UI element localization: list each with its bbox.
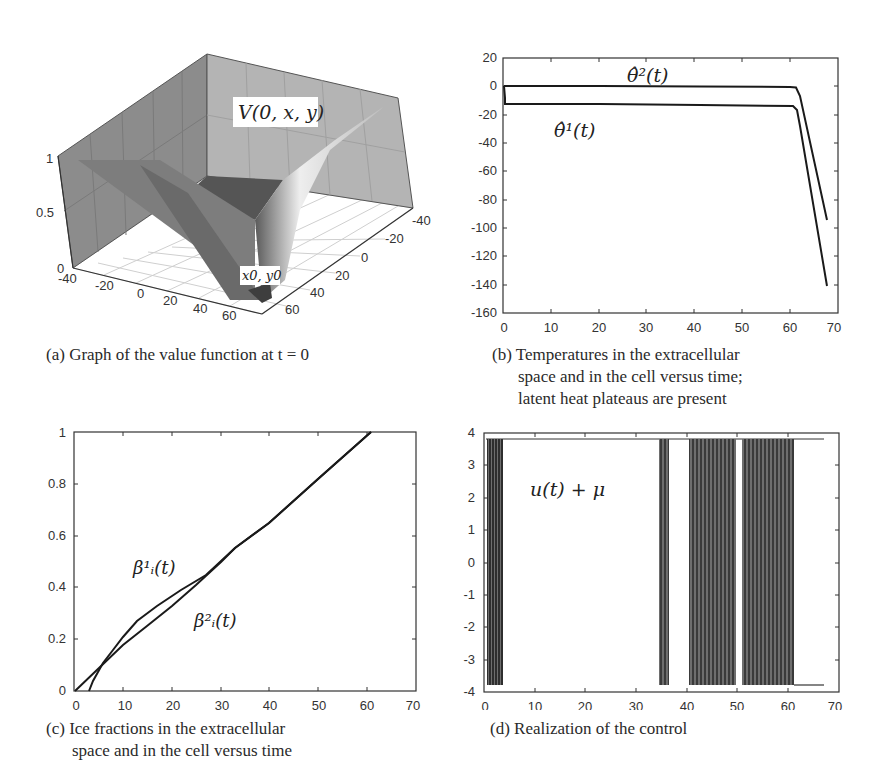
panel-c-ice-fraction-plot: 10.80.60.40.20 010203040506070 β¹ᵢ(t) β²… (0, 420, 440, 710)
svg-text:-40: -40 (412, 213, 431, 228)
label-theta2: θ̂²(t) (627, 64, 669, 86)
svg-text:-120: -120 (471, 248, 497, 263)
svg-text:30: 30 (215, 698, 229, 710)
caption-a-label: (a) (46, 345, 65, 364)
svg-text:40: 40 (263, 698, 277, 710)
svg-text:40: 40 (193, 301, 207, 316)
caption-b: (b) Temperatures in the extracellular sp… (492, 344, 743, 410)
svg-text:20: 20 (166, 698, 180, 710)
svg-text:-20: -20 (385, 231, 404, 246)
panel-a-surface-plot: 1 0.5 0 -40 -20 0 20 40 60 -40 -20 0 20 … (0, 0, 440, 330)
svg-text:-100: -100 (471, 220, 497, 235)
svg-text:30: 30 (639, 320, 653, 335)
caption-b-line-3: latent heat plateaus are present (492, 388, 743, 410)
svg-text:0.6: 0.6 (48, 528, 66, 543)
svg-text:4: 4 (468, 425, 475, 440)
svg-text:0: 0 (72, 698, 79, 710)
x-tick-labels: 010203040506070 (72, 698, 420, 710)
svg-text:-40: -40 (478, 135, 497, 150)
svg-text:0: 0 (59, 683, 66, 698)
svg-text:20: 20 (578, 699, 592, 710)
svg-text:10: 10 (544, 320, 558, 335)
svg-text:0: 0 (361, 250, 368, 265)
caption-d: (d) Realization of the control (490, 718, 687, 740)
svg-text:-160: -160 (471, 305, 497, 320)
svg-text:1: 1 (468, 522, 475, 537)
ice-fraction-plot-svg: 10.80.60.40.20 010203040506070 β¹ᵢ(t) β²… (0, 420, 440, 710)
y-tick-labels: 10.80.60.40.20 (48, 425, 66, 698)
label-control: u(t) + μ (530, 478, 605, 500)
svg-text:0.4: 0.4 (48, 579, 66, 594)
svg-text:20: 20 (163, 293, 177, 308)
svg-text:-1: -1 (463, 587, 475, 602)
surface-plot-svg: 1 0.5 0 -40 -20 0 20 40 60 -40 -20 0 20 … (0, 0, 440, 330)
svg-text:-20: -20 (478, 107, 497, 122)
label-theta1: θ̂¹(t) (554, 119, 596, 141)
svg-text:0: 0 (500, 320, 507, 335)
switching-band-3 (689, 439, 736, 685)
svg-text:70: 70 (406, 698, 420, 710)
svg-text:2: 2 (468, 490, 475, 505)
svg-text:1: 1 (59, 425, 66, 440)
svg-text:0: 0 (490, 78, 497, 93)
caption-b-label: (b) (492, 345, 512, 364)
caption-b-line-2: space and in the cell versus time; (492, 366, 743, 388)
caption-c-line-2: space and in the cell versus time (46, 740, 292, 762)
plot-frame (74, 432, 416, 691)
svg-text:-20: -20 (95, 278, 114, 293)
svg-text:0.5: 0.5 (36, 205, 54, 220)
svg-text:0.8: 0.8 (48, 476, 66, 491)
svg-text:0: 0 (481, 699, 488, 710)
caption-d-label: (d) (490, 719, 510, 738)
svg-text:-3: -3 (463, 652, 475, 667)
svg-text:0: 0 (137, 286, 144, 301)
svg-text:30: 30 (629, 699, 643, 710)
switching-band-4 (742, 439, 794, 685)
svg-text:50: 50 (730, 699, 744, 710)
svg-text:-60: -60 (478, 163, 497, 178)
svg-text:-2: -2 (463, 619, 475, 634)
svg-text:70: 70 (827, 320, 841, 335)
svg-text:-4: -4 (463, 684, 475, 699)
svg-text:0.2: 0.2 (48, 631, 66, 646)
caption-c-label: (c) (46, 719, 65, 738)
svg-text:70: 70 (828, 699, 842, 710)
control-plot-svg: 43210-1-2-3-4 010203040506070 u(t) + μ (440, 420, 877, 710)
label-beta1: β¹ᵢ(t) (132, 557, 176, 578)
svg-text:20: 20 (483, 50, 497, 65)
x-tick-labels: 010203040506070 (500, 320, 841, 335)
caption-a-text: Graph of the value function at t = 0 (69, 345, 309, 364)
x-tick-labels: 010203040506070 (481, 699, 842, 710)
svg-text:10: 10 (118, 698, 132, 710)
svg-text:-140: -140 (471, 277, 497, 292)
switching-band-2 (659, 439, 669, 685)
svg-text:10: 10 (528, 699, 542, 710)
y-tick-labels: 43210-1-2-3-4 (463, 425, 475, 699)
svg-text:50: 50 (735, 320, 749, 335)
panel-b-temperature-plot: 200-20-40-60-80-100-120-140-160 01020304… (440, 0, 877, 340)
svg-text:40: 40 (680, 699, 694, 710)
svg-text:60: 60 (781, 699, 795, 710)
svg-text:60: 60 (285, 302, 299, 317)
svg-text:3: 3 (468, 457, 475, 472)
svg-text:-40: -40 (58, 271, 77, 286)
svg-text:40: 40 (687, 320, 701, 335)
label-beta2: β²ᵢ(t) (193, 610, 237, 631)
svg-text:-80: -80 (478, 192, 497, 207)
panel-d-control-plot: 43210-1-2-3-4 010203040506070 u(t) + μ (440, 420, 877, 710)
caption-c: (c) Ice fractions in the extracellular s… (46, 718, 292, 762)
svg-text:60: 60 (783, 320, 797, 335)
svg-text:60: 60 (360, 698, 374, 710)
y-tick-labels: 200-20-40-60-80-100-120-140-160 (471, 50, 497, 320)
svg-text:50: 50 (312, 698, 326, 710)
svg-text:20: 20 (592, 320, 606, 335)
switching-band-1 (487, 439, 503, 685)
temperature-plot-svg: 200-20-40-60-80-100-120-140-160 01020304… (440, 0, 877, 340)
caption-d-text: Realization of the control (514, 719, 687, 738)
svg-text:0: 0 (468, 555, 475, 570)
svg-text:1: 1 (46, 151, 53, 166)
svg-text:60: 60 (222, 308, 236, 323)
caption-b-line-1: Temperatures in the extracellular (516, 345, 740, 364)
svg-text:20: 20 (335, 268, 349, 283)
plot-frame (503, 58, 838, 313)
